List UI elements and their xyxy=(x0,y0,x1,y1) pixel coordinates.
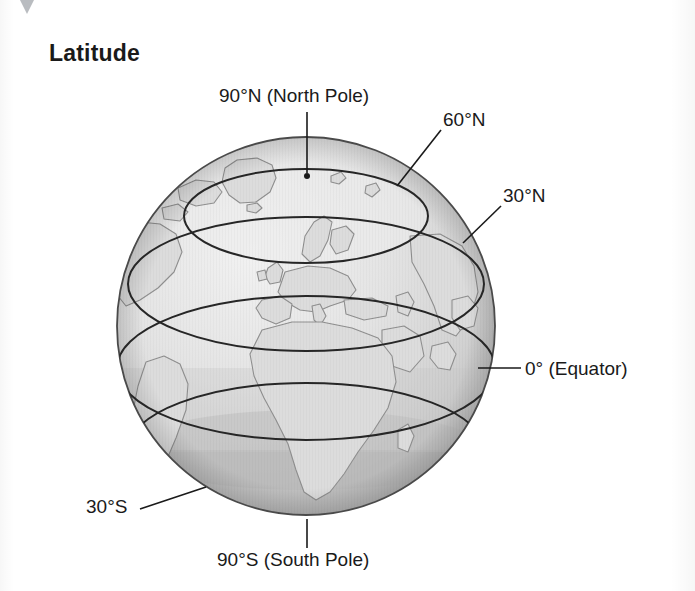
label-60-north: 60°N xyxy=(443,110,485,129)
label-90-south: 90°S (South Pole) xyxy=(217,550,369,569)
globe-sphere xyxy=(110,137,510,540)
latitude-diagram-page: Latitude xyxy=(0,0,695,591)
label-30-south: 30°S xyxy=(86,497,127,516)
leader-line-30s xyxy=(140,487,206,509)
label-equator: 0° (Equator) xyxy=(525,359,628,378)
north-pole-marker xyxy=(304,173,310,179)
leader-line-30n xyxy=(463,206,501,243)
label-90-north: 90°N (North Pole) xyxy=(219,86,369,105)
label-30-north: 30°N xyxy=(503,186,545,205)
